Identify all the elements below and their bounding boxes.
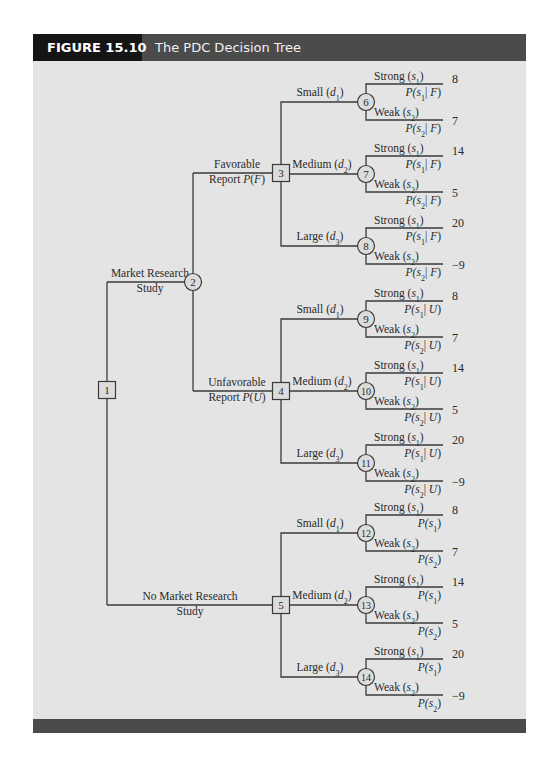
chance-node-14-number: 14 <box>361 672 371 683</box>
market-research-study-label: Market Research <box>111 267 189 279</box>
probability-12-1: P(s1) <box>417 517 441 534</box>
probability-8-1: P(s1| F) <box>405 230 442 247</box>
chance-node-12-number: 12 <box>361 528 371 539</box>
probability-9-1: P(s1| U) <box>403 303 441 320</box>
chance-node-11-number: 11 <box>361 458 371 469</box>
payoff-12-strong: 8 <box>452 503 458 517</box>
chance-node-7-number: 7 <box>363 168 369 180</box>
probability-8-2: P(s2| F) <box>405 266 442 283</box>
payoff-10-weak: 5 <box>452 403 458 417</box>
decision-label-large-8: Large (d3) <box>297 230 344 247</box>
probability-7-1: P(s1| F) <box>405 158 442 175</box>
no-market-research-study-label-line2: Study <box>177 605 204 618</box>
payoff-13-weak: 5 <box>452 617 458 631</box>
payoff-11-strong: 20 <box>452 433 464 447</box>
probability-13-2: P(s2) <box>417 625 441 642</box>
probability-13-1: P(s1) <box>417 589 441 606</box>
figure-footer-bar <box>33 719 526 733</box>
chance-node-8-number: 8 <box>363 240 369 252</box>
decision-label-medium-7: Medium (d2) <box>292 158 351 175</box>
decision-node-1-number: 1 <box>104 384 110 396</box>
probability-12-2: P(s2) <box>417 553 441 570</box>
probability-9-2: P(s2| U) <box>403 339 441 356</box>
payoff-14-weak: −9 <box>452 689 465 703</box>
favorable-report-probability: Report P(F) <box>209 173 265 186</box>
chance-node-9-number: 9 <box>363 313 369 325</box>
decision-label-small-12: Small (d1) <box>296 517 343 534</box>
decision-label-medium-13: Medium (d2) <box>292 589 351 606</box>
probability-14-2: P(s2) <box>417 697 441 714</box>
probability-11-2: P(s2| U) <box>403 483 441 500</box>
payoff-9-strong: 8 <box>452 289 458 303</box>
payoff-11-weak: −9 <box>452 475 465 489</box>
chance-node-2-number: 2 <box>190 276 196 288</box>
branch-line-decision-6 <box>281 102 358 165</box>
figure-frame: FIGURE 15.10 The PDC Decision Tree Marke… <box>33 34 526 733</box>
probability-11-1: P(s1| U) <box>403 447 441 464</box>
decision-label-medium-10: Medium (d2) <box>292 375 351 392</box>
decision-label-large-14: Large (d3) <box>297 661 344 678</box>
probability-6-1: P(s1| F) <box>405 86 442 103</box>
decision-tree: Market ResearchStudyNo Market ResearchSt… <box>33 34 526 733</box>
decision-label-small-6: Small (d1) <box>296 86 343 103</box>
payoff-12-weak: 7 <box>452 545 458 559</box>
market-research-study-label-line2: Study <box>137 282 164 295</box>
unfavorable-report-probability: Report P(U) <box>208 391 265 404</box>
payoff-8-strong: 20 <box>452 216 464 230</box>
probability-10-1: P(s1| U) <box>403 375 441 392</box>
decision-node-3-number: 3 <box>278 167 284 179</box>
branch-line-decision-9 <box>281 319 358 383</box>
probability-14-1: P(s1) <box>417 661 441 678</box>
chance-node-6-number: 6 <box>363 96 369 108</box>
favorable-report-label: Favorable <box>214 158 260 170</box>
payoff-6-weak: 7 <box>452 114 458 128</box>
payoff-7-strong: 14 <box>452 144 464 158</box>
probability-6-2: P(s2| F) <box>405 122 442 139</box>
payoff-8-weak: −9 <box>452 258 465 272</box>
chance-node-13-number: 13 <box>361 600 371 611</box>
payoff-13-strong: 14 <box>452 575 464 589</box>
probability-10-2: P(s2| U) <box>403 411 441 428</box>
payoff-9-weak: 7 <box>452 331 458 345</box>
branch-line-decision-12 <box>281 533 358 597</box>
payoff-6-strong: 8 <box>452 72 458 86</box>
payoff-10-strong: 14 <box>452 361 464 375</box>
decision-label-small-9: Small (d1) <box>296 303 343 320</box>
payoff-7-weak: 5 <box>452 186 458 200</box>
payoff-14-strong: 20 <box>452 647 464 661</box>
unfavorable-report-label: Unfavorable <box>208 376 265 388</box>
decision-node-4-number: 4 <box>278 385 284 397</box>
chance-node-10-number: 10 <box>361 386 371 397</box>
probability-7-2: P(s2| F) <box>405 194 442 211</box>
decision-label-large-11: Large (d3) <box>297 447 344 464</box>
decision-node-5-number: 5 <box>278 599 284 611</box>
no-market-research-study-label: No Market Research <box>142 590 237 602</box>
